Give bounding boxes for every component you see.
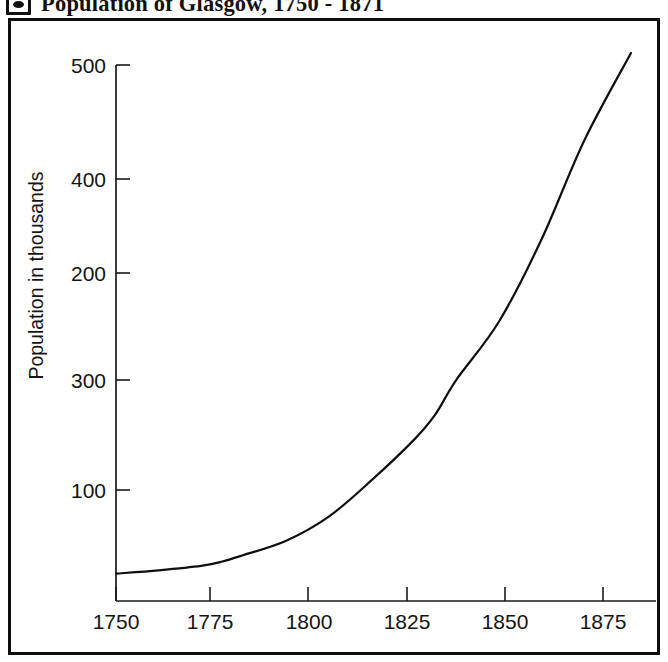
circle-in-square-icon-dot bbox=[13, 1, 24, 8]
x-tick-marks bbox=[116, 587, 603, 601]
title-row: Population of Glasgow, 1750 - 1871 bbox=[0, 0, 668, 19]
y-tick-marks bbox=[116, 65, 130, 490]
plot-area: Population in thousands 500 400 200 300 … bbox=[11, 21, 663, 658]
chart-frame: Population in thousands 500 400 200 300 … bbox=[8, 18, 660, 655]
population-curve bbox=[116, 53, 631, 574]
page-title: Population of Glasgow, 1750 - 1871 bbox=[41, 0, 384, 17]
chart-page: Population of Glasgow, 1750 - 1871 Popul… bbox=[0, 0, 668, 662]
circle-in-square-icon bbox=[6, 0, 31, 15]
chart-svg bbox=[11, 21, 663, 658]
